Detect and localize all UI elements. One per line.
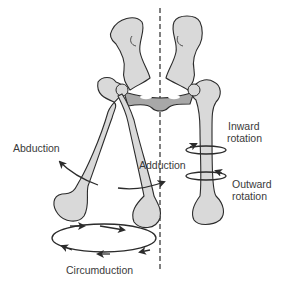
right-ilium [166,16,202,90]
left-ilium [111,18,150,90]
circumduction-label: Circumduction [66,265,133,276]
abduction-label: Abduction [13,143,60,154]
pelvis [124,92,194,111]
inward-rotation-label-line1: Inward [228,121,260,132]
outward-rotation-label-line1: Outward [232,179,272,190]
inward-rotation-label-line2: rotation [227,133,262,144]
adduction-label: Adduction [139,160,186,171]
outward-rotation-label-line2: rotation [232,191,267,202]
left-femur [54,78,124,222]
right-femur [192,80,223,225]
